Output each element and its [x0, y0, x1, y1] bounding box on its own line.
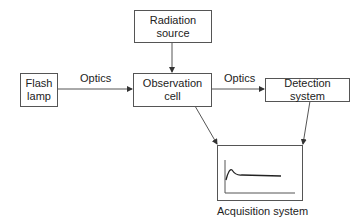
observation-cell-box: Observation cell: [133, 73, 212, 107]
radiation-source-line2: source: [156, 27, 189, 40]
acquisition-system-label: Acquisition system: [217, 205, 308, 218]
optics-label-right: Optics: [224, 72, 255, 85]
flash-lamp-line1: Flash: [26, 77, 53, 90]
detection-system-label: Detection system: [266, 77, 349, 103]
optics-label-left: Optics: [80, 72, 111, 85]
acquisition-system-box: [217, 145, 303, 201]
flash-lamp-box: Flash lamp: [20, 73, 58, 107]
detection-system-box: Detection system: [265, 78, 350, 102]
radiation-source-box: Radiation source: [134, 10, 212, 43]
flash-lamp-line2: lamp: [27, 90, 51, 103]
observation-cell-line1: Observation: [143, 77, 202, 90]
observation-cell-line2: cell: [164, 90, 181, 103]
radiation-source-line1: Radiation: [150, 14, 196, 27]
